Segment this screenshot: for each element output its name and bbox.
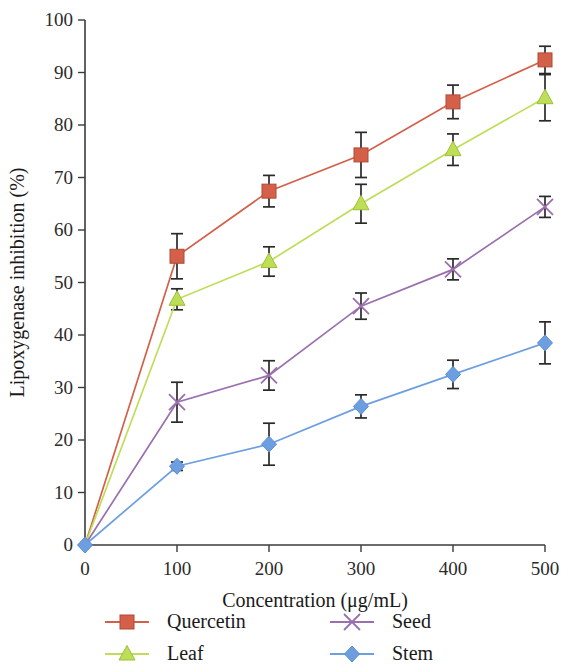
y-tick-label: 50 xyxy=(54,272,73,293)
series-quercetin xyxy=(85,53,552,545)
data-point-stem xyxy=(262,436,277,452)
series-seed xyxy=(85,199,553,545)
data-point-stem xyxy=(538,335,553,351)
data-point-quercetin xyxy=(446,95,460,109)
x-axis-title: Concentration (μg/mL) xyxy=(222,589,408,612)
legend-label-seed: Seed xyxy=(392,610,431,632)
data-point-quercetin xyxy=(354,148,368,162)
chart-figure: 01020304050607080901000100200300400500Co… xyxy=(0,0,574,672)
y-axis-title: Lipoxygenase inhibition (%) xyxy=(6,168,29,398)
y-tick-label: 70 xyxy=(54,167,73,188)
lipoxygenase-inhibition-line-chart: 01020304050607080901000100200300400500Co… xyxy=(0,0,574,672)
x-tick-label: 100 xyxy=(163,558,192,579)
x-tick-label: 0 xyxy=(80,558,90,579)
y-axis-title-text: Lipoxygenase inhibition (%) xyxy=(6,168,29,398)
legend-label-quercetin: Quercetin xyxy=(167,610,246,632)
x-axis-title-text: Concentration (μg/mL) xyxy=(222,589,408,612)
y-tick-label: 60 xyxy=(54,219,73,240)
series-leaf xyxy=(85,89,553,545)
y-tick-label: 30 xyxy=(54,377,73,398)
data-point-quercetin xyxy=(170,249,184,263)
data-point-leaf xyxy=(169,291,185,306)
x-axis: 0100200300400500 xyxy=(80,545,559,579)
x-tick-label: 300 xyxy=(347,558,376,579)
y-axis: 0102030405060708090100 xyxy=(45,9,86,555)
y-tick-label: 100 xyxy=(45,9,74,30)
legend-marker-stem xyxy=(345,646,360,662)
data-point-quercetin xyxy=(262,184,276,198)
y-tick-label: 10 xyxy=(54,482,73,503)
series-stem xyxy=(78,335,553,553)
data-point-leaf xyxy=(261,253,277,268)
x-tick-label: 200 xyxy=(255,558,284,579)
series-line-stem xyxy=(85,343,545,545)
y-tick-label: 40 xyxy=(54,324,73,345)
y-tick-label: 0 xyxy=(64,534,74,555)
series-line-quercetin xyxy=(85,60,545,545)
series-line-seed xyxy=(85,207,545,545)
data-point-leaf xyxy=(445,141,461,156)
data-point-stem xyxy=(446,366,461,382)
data-point-leaf xyxy=(537,89,553,104)
legend-label-leaf: Leaf xyxy=(167,642,204,664)
data-point-quercetin xyxy=(538,53,552,67)
series-line-leaf xyxy=(85,98,545,545)
x-tick-label: 500 xyxy=(531,558,560,579)
y-tick-label: 80 xyxy=(54,114,73,135)
y-tick-label: 90 xyxy=(54,62,73,83)
legend-marker-leaf xyxy=(119,646,135,661)
legend-label-stem: Stem xyxy=(392,642,434,664)
data-point-leaf xyxy=(353,195,369,210)
data-point-stem xyxy=(354,398,369,414)
legend-marker-quercetin xyxy=(120,615,134,629)
legend: QuercetinLeafSeedStem xyxy=(105,610,434,664)
x-tick-label: 400 xyxy=(439,558,468,579)
y-tick-label: 20 xyxy=(54,429,73,450)
